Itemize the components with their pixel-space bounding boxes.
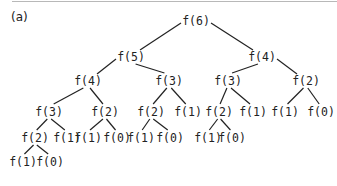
tree-node: f(1): [127, 131, 155, 145]
tree-edge: [288, 88, 304, 104]
tree-nodes: f(6)f(5)f(4)f(4)f(3)f(3)f(2)f(3)f(2)f(2)…: [9, 14, 335, 169]
tree-node: f(3): [35, 105, 63, 119]
tree-node: f(4): [74, 74, 102, 88]
tree-node: f(1): [9, 155, 37, 169]
tree-edge: [106, 119, 115, 130]
tree-edge: [220, 88, 227, 104]
tree-edge: [90, 119, 103, 130]
tree-node: f(0): [218, 131, 246, 145]
tree-edge: [231, 88, 250, 104]
diagram-canvas: (a) f(6)f(5)f(4)f(4)f(3)f(3)f(2)f(3)f(2)…: [0, 0, 337, 186]
tree-node: f(0): [156, 131, 184, 145]
tree-edge: [221, 119, 231, 130]
tree-edge: [37, 145, 48, 154]
tree-edge: [51, 119, 65, 130]
tree-edge: [97, 59, 116, 74]
tree-edge: [37, 119, 48, 130]
tree-edge: [142, 119, 150, 130]
tree-edge: [90, 88, 103, 104]
tree-edge: [211, 23, 253, 50]
tree-edge: [209, 119, 217, 130]
tree-node: f(2): [91, 105, 119, 119]
tree-edge: [171, 88, 185, 104]
tree-node: f(2): [292, 74, 320, 88]
recursion-tree: f(6)f(5)f(4)f(4)f(3)f(3)f(2)f(3)f(2)f(2)…: [0, 0, 337, 186]
tree-node: f(1): [239, 105, 267, 119]
tree-node: f(0): [36, 155, 64, 169]
tree-node: f(3): [155, 74, 183, 88]
tree-node: f(4): [248, 50, 276, 64]
tree-edge: [136, 64, 165, 73]
tree-node: f(3): [214, 74, 242, 88]
tree-node: f(0): [307, 105, 335, 119]
tree-node: f(1): [174, 105, 202, 119]
tree-edge: [153, 88, 167, 104]
tree-edge: [24, 145, 33, 154]
tree-edge: [277, 59, 297, 74]
tree-edge: [54, 88, 84, 104]
tree-node: f(5): [117, 50, 145, 64]
tree-node: f(6): [182, 14, 210, 28]
tree-edge: [308, 88, 319, 104]
tree-node: f(1): [271, 105, 299, 119]
tree-node: f(2): [205, 105, 233, 119]
tree-edge: [232, 64, 258, 73]
tree-edge: [140, 23, 181, 50]
tree-node: f(2): [21, 131, 49, 145]
tree-edge: [153, 119, 167, 130]
tree-node: f(2): [137, 105, 165, 119]
tree-node: f(1): [74, 131, 102, 145]
